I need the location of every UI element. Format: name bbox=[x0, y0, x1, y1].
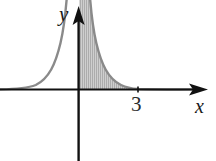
x-tick-label-3: 3 bbox=[131, 94, 142, 115]
y-axis-label: y bbox=[59, 4, 68, 25]
plot-canvas bbox=[0, 0, 216, 161]
math-figure: y x 3 bbox=[0, 0, 216, 161]
x-axis-label: x bbox=[195, 96, 204, 116]
curve-left-branch bbox=[0, 0, 67, 89]
